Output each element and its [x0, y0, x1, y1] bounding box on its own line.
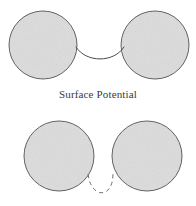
bottom-panel [24, 121, 182, 193]
meniscus-bridge [76, 47, 124, 59]
figure-canvas [0, 0, 196, 206]
surface-potential-figure: Surface Potential [0, 0, 196, 206]
top-right-particle [121, 11, 189, 79]
surface-potential-caption: Surface Potential [0, 88, 196, 101]
bottom-left-particle [24, 121, 94, 191]
top-left-particle [9, 11, 77, 79]
bottom-right-particle [112, 121, 182, 191]
top-panel [9, 11, 189, 79]
ruptured-meniscus-bridge [88, 174, 113, 193]
